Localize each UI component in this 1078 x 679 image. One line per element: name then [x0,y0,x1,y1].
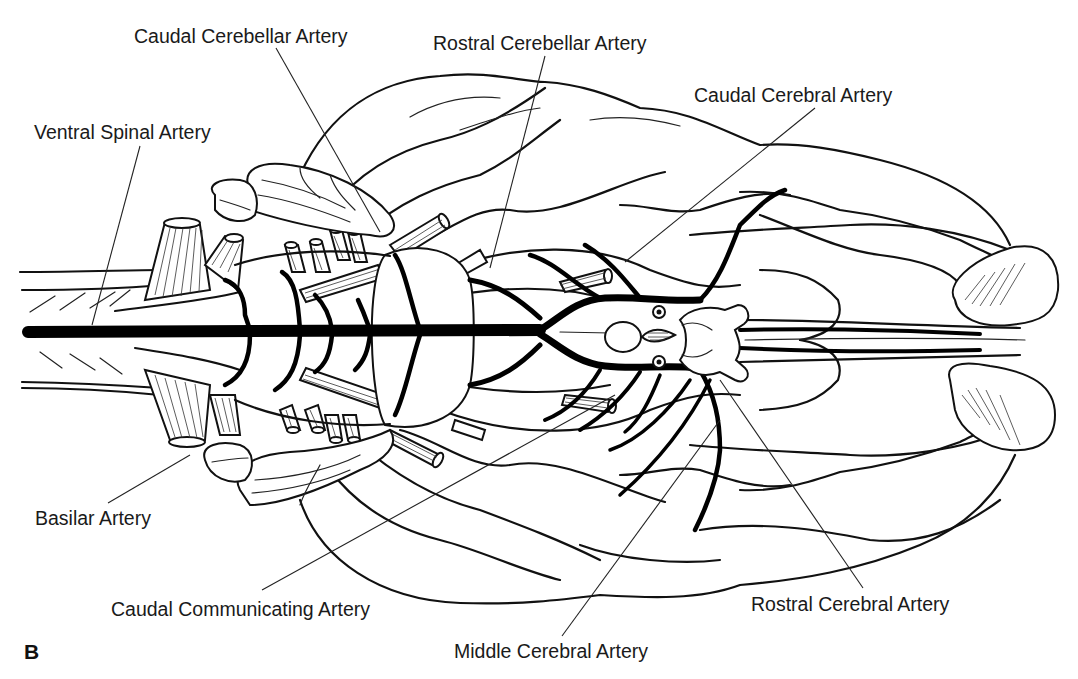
leader-rostral-cerebellar-artery [490,56,545,268]
leader-ventral-spinal-artery [92,146,140,325]
leader-basilar-artery [108,455,190,503]
label-caudal-cerebral-artery: Caudal Cerebral Artery [694,84,893,106]
label-middle-cerebral-artery: Middle Cerebral Artery [454,640,648,662]
panel-letter: B [24,640,39,663]
label-caudal-communicating-artery: Caudal Communicating Artery [111,598,370,620]
pons [372,248,474,427]
label-caudal-cerebellar-artery: Caudal Cerebellar Artery [134,25,348,47]
leader-rostral-cerebral-artery [720,380,863,588]
label-rostral-cerebral-artery: Rostral Cerebral Artery [751,593,950,615]
leader-caudal-cerebral-artery [625,108,815,262]
label-ventral-spinal-artery: Ventral Spinal Artery [34,121,211,143]
brain-artery-diagram: Caudal Cerebellar Artery Rostral Cerebel… [0,0,1078,679]
label-basilar-artery: Basilar Artery [35,507,151,529]
label-rostral-cerebellar-artery: Rostral Cerebellar Artery [433,32,647,54]
